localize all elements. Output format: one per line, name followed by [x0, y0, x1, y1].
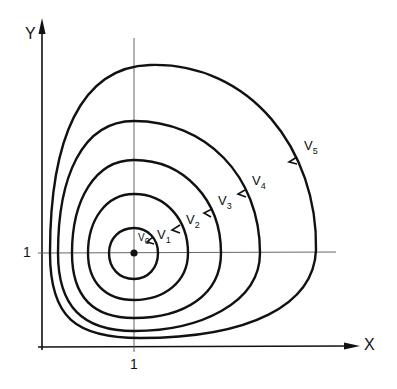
curve-label-v0: V0 [138, 232, 150, 246]
arrow-v2-icon [204, 209, 212, 217]
x-axis-label: X [364, 336, 375, 354]
equilibrium-point [130, 249, 137, 256]
curve-label-v5: V5 [304, 138, 318, 156]
arrow-v3-icon [238, 190, 246, 197]
curves [50, 65, 316, 338]
curve-label-v1: V1 [157, 227, 171, 245]
curve-label-v2: V2 [186, 212, 200, 230]
curve-label-v3: V3 [218, 193, 232, 211]
y-axis-label: Y [25, 25, 36, 43]
y-tick-label: 1 [23, 244, 31, 260]
y-axis-arrow-icon [39, 18, 46, 34]
curve-v1 [88, 194, 188, 300]
arrow-v5-icon [289, 157, 297, 164]
diagram-svg [0, 0, 397, 389]
arrow-v1-icon [172, 225, 180, 233]
curve-v4 [50, 65, 316, 338]
x-tick-label: 1 [130, 356, 138, 372]
curve-v3 [58, 121, 260, 331]
level-curves-diagram: Y X 1 1 V0 V1 V2 V3 V4 V5 [0, 0, 397, 389]
x-axis-arrow-icon [344, 343, 360, 350]
x-axis [38, 346, 350, 347]
curve-label-v4: V4 [252, 173, 266, 191]
